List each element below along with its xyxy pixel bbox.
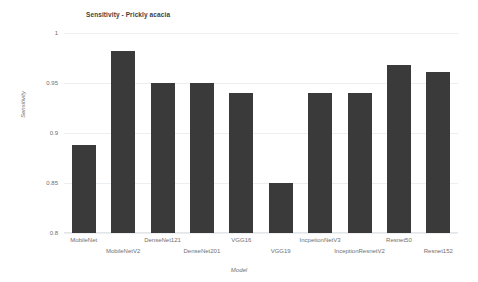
bar [269, 183, 293, 233]
bar [348, 93, 372, 233]
bar [426, 72, 450, 233]
plot-area: 10.950.90.850.8 [64, 33, 458, 233]
x-axis-tick-label: InceptionResnetV2 [334, 248, 385, 254]
x-axis-tick-label: MobileNetV2 [106, 248, 140, 254]
y-axis-tick-label: 0.85 [46, 180, 58, 186]
y-axis-tick-label: 1 [55, 30, 58, 36]
x-axis-tick-label: DenseNet121 [144, 237, 181, 243]
x-axis-tick-label: IncpetionNetV3 [300, 237, 341, 243]
y-axis-tick-label: 0.9 [50, 130, 58, 136]
x-axis-tick-label: VGG16 [231, 237, 251, 243]
bar [229, 93, 253, 233]
bar [190, 83, 214, 233]
y-axis-tick-label: 0.8 [50, 230, 58, 236]
bar [308, 93, 332, 233]
x-axis-tick-label: VGG19 [271, 248, 291, 254]
x-axis-tick-label: DenseNet201 [184, 248, 221, 254]
x-axis-tick-label: Resnet152 [424, 248, 453, 254]
bar-chart: Sensitivity - Prickly acacia Sensitivity… [0, 0, 478, 282]
x-axis-tick-label: MobileNet [70, 237, 97, 243]
y-axis-title: Sensitivity [20, 91, 26, 118]
gridline [64, 33, 458, 34]
bar [111, 51, 135, 233]
bar [151, 83, 175, 233]
gridline [64, 233, 458, 234]
bar [72, 145, 96, 233]
x-axis-title: Model [0, 267, 478, 273]
x-axis-tick-label: Resnet50 [386, 237, 412, 243]
bar [387, 65, 411, 233]
chart-title: Sensitivity - Prickly acacia [86, 11, 170, 18]
y-axis-tick-label: 0.95 [46, 80, 58, 86]
